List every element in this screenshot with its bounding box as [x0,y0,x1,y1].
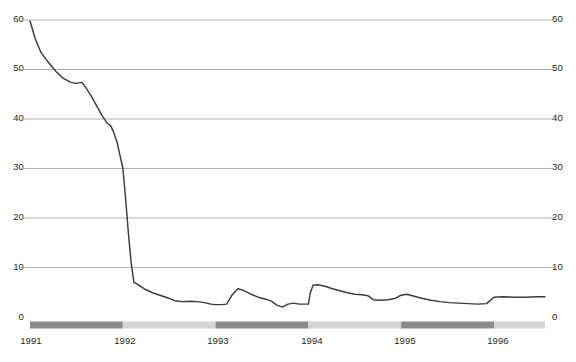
data-line-1 [30,21,545,307]
period-bar-segment-1993 [216,322,309,329]
chart-container: 60 50 40 30 20 10 0 60 50 40 30 20 10 0 … [0,0,576,362]
period-bar [30,322,545,329]
period-bar-segment-1991 [30,322,123,329]
period-bar-segment-1996 [494,322,545,329]
series-group [30,21,545,307]
gridlines-group [21,20,554,317]
period-bar-segment-1992 [123,322,216,329]
plot-area [0,0,576,362]
period-bar-segment-1995 [401,322,494,329]
period-bar-segment-1994 [308,322,401,329]
